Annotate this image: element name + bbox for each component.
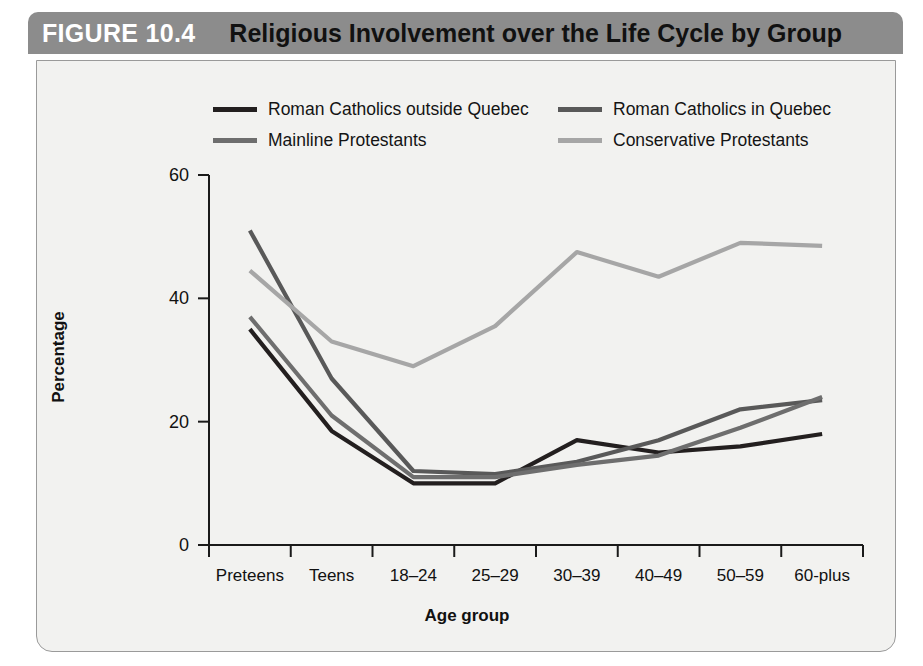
y-tick-label: 60 <box>169 165 189 185</box>
chart-ticks <box>198 175 863 557</box>
y-tick-label: 20 <box>169 412 189 432</box>
x-tick-label: 50–59 <box>717 566 764 585</box>
y-tick-labels: 0204060 <box>169 165 189 555</box>
x-tick-label: 40–49 <box>635 566 682 585</box>
figure-number: FIGURE 10.4 <box>42 19 195 48</box>
figure-header-bar: FIGURE 10.4 Religious Involvement over t… <box>28 12 903 54</box>
x-tick-labels: PreteensTeens18–2425–2930–3940–4950–5960… <box>216 566 850 585</box>
x-tick-label: 60-plus <box>794 566 850 585</box>
y-tick-label: 40 <box>169 288 189 308</box>
x-tick-label: Teens <box>309 566 354 585</box>
plot-area: 0204060 PreteensTeens18–2425–2930–3940–4… <box>37 61 897 653</box>
x-tick-label: 18–24 <box>390 566 437 585</box>
series-line-0 <box>250 329 822 483</box>
line-chart-svg: 0204060 PreteensTeens18–2425–2930–3940–4… <box>37 61 897 653</box>
figure-title: Religious Involvement over the Life Cycl… <box>229 19 842 48</box>
y-tick-label: 0 <box>179 535 189 555</box>
x-axis-title: Age group <box>37 606 897 626</box>
chart-axes <box>209 175 863 545</box>
x-tick-label: 25–29 <box>471 566 518 585</box>
series-line-3 <box>250 243 822 366</box>
chart-series-lines <box>250 231 822 484</box>
series-line-1 <box>250 231 822 475</box>
y-axis-title: Percentage <box>49 311 69 403</box>
chart-panel: Roman Catholics outside Quebec Roman Cat… <box>36 60 896 652</box>
x-tick-label: Preteens <box>216 566 284 585</box>
x-tick-label: 30–39 <box>553 566 600 585</box>
figure-root: FIGURE 10.4 Religious Involvement over t… <box>0 0 923 666</box>
